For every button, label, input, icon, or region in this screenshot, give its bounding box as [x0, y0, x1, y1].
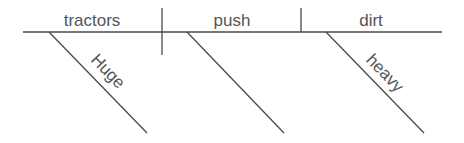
- subject-word: tractors: [64, 11, 121, 30]
- object-modifier-word: heavy: [362, 50, 408, 96]
- object-modifier-line: [326, 32, 424, 133]
- sentence-diagram: tractors push dirt Huge heavy: [0, 0, 464, 143]
- subject-modifier-word: Huge: [87, 50, 129, 92]
- verb-modifier-line: [187, 32, 284, 133]
- object-word: dirt: [359, 11, 383, 30]
- subject-modifier-line: [49, 32, 147, 133]
- verb-word: push: [214, 11, 251, 30]
